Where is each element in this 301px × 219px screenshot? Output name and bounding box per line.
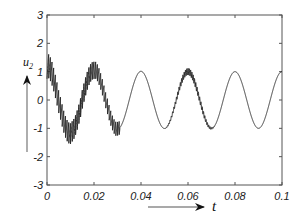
y-tick-labels: -3-2-10123 bbox=[33, 9, 44, 191]
y-tick-label: 2 bbox=[36, 37, 43, 49]
x-tick-label: 0.06 bbox=[177, 190, 199, 202]
x-tick-label: 0.04 bbox=[130, 190, 151, 202]
y-tick-label: 1 bbox=[37, 66, 43, 78]
x-tick-label: 0.08 bbox=[224, 190, 246, 202]
x-tick-label: 0 bbox=[44, 190, 51, 202]
y-tick-label: -3 bbox=[33, 179, 44, 191]
chart: -3-2-10123 00.020.040.060.080.1 u2 t bbox=[0, 0, 301, 219]
x-axis-label: t bbox=[212, 198, 217, 214]
x-tick-labels: 00.020.040.060.080.1 bbox=[44, 190, 290, 202]
y-axis-label-subscript: 2 bbox=[29, 62, 33, 71]
x-tick-label: 0.02 bbox=[83, 190, 104, 202]
y-axis-label: u2 bbox=[23, 55, 33, 71]
y-tick-label: 3 bbox=[37, 9, 44, 21]
y-tick-label: -1 bbox=[33, 122, 43, 134]
y-tick-label: -2 bbox=[33, 151, 43, 163]
x-tick-label: 0.1 bbox=[274, 190, 289, 202]
y-tick-label: 0 bbox=[37, 94, 44, 106]
